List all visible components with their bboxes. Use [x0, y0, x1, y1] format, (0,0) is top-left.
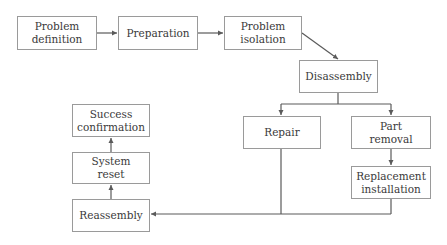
node-part-removal: Part removal — [351, 116, 431, 149]
node-problem-isolation: Problem isolation — [224, 16, 302, 50]
node-problem-definition: Problem definition — [17, 16, 97, 50]
edge-problem-isolation-to-disassembly — [302, 33, 338, 59]
node-preparation: Preparation — [118, 16, 198, 50]
node-success-confirmation: Success confirmation — [72, 104, 150, 137]
node-repair: Repair — [243, 116, 321, 149]
node-system-reset: System reset — [72, 152, 150, 184]
flowchart-canvas: Problem definition Preparation Problem i… — [0, 0, 447, 245]
node-reassembly: Reassembly — [72, 199, 150, 232]
node-replacement-installation: Replacement installation — [351, 166, 431, 199]
node-disassembly: Disassembly — [299, 60, 378, 93]
